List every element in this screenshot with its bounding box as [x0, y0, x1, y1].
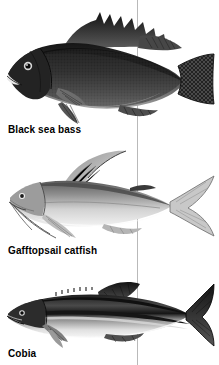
fish-entry-cobia: Cobia	[0, 272, 219, 365]
catfish-caudal-fin	[170, 176, 214, 236]
bass-caudal-fin	[178, 54, 214, 104]
bass-anal-fin	[118, 105, 158, 116]
cobia-head	[7, 299, 47, 328]
catfish-adipose-fin	[130, 185, 156, 191]
fish-entry-gafftopsail-catfish: Gafftopsail catfish	[0, 150, 219, 260]
bass-head	[7, 48, 52, 99]
fish-entry-black-sea-bass: Black sea bass	[0, 0, 219, 140]
cobia-illustration	[0, 272, 219, 350]
catfish-anal-fin	[102, 224, 142, 234]
cobia-caudal-fin	[186, 284, 214, 346]
gafftopsail-catfish-illustration	[0, 150, 219, 245]
caption-cobia: Cobia	[8, 348, 36, 359]
caption-gafftopsail-catfish: Gafftopsail catfish	[8, 245, 97, 256]
fish-identification-plate: Black sea bass	[0, 0, 219, 365]
caption-black-sea-bass: Black sea bass	[8, 124, 81, 135]
catfish-head	[9, 182, 45, 216]
black-sea-bass-illustration	[0, 4, 219, 124]
